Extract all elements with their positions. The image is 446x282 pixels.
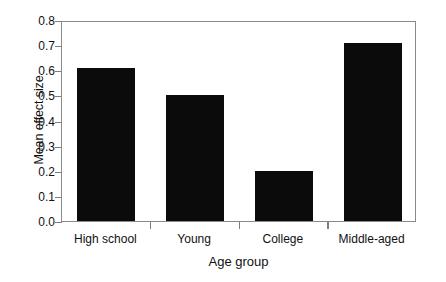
y-axis-tick-label: 0.1: [22, 191, 55, 203]
bar-middle-aged: [344, 43, 402, 221]
x-axis-title: Age group: [61, 254, 416, 269]
bar-young: [166, 95, 224, 221]
y-axis-tick-label: 0.8: [22, 15, 55, 27]
x-axis-tick-mark: [327, 222, 329, 229]
bar-high-school: [77, 68, 135, 221]
y-axis-tick-label: 0.5: [22, 90, 55, 102]
y-axis-tick-mark: [55, 222, 62, 223]
y-axis-tick-label: 0.2: [22, 166, 55, 178]
y-axis-tick-label: 0.6: [22, 65, 55, 77]
y-axis-tick-label: 0.3: [22, 141, 55, 153]
y-axis-tick-label: 0.0: [22, 216, 55, 228]
bar-college: [255, 171, 313, 221]
plot-area: [61, 21, 416, 222]
y-axis-tick-label: 0.4: [22, 116, 55, 128]
y-axis-tick-labels: 0.80.70.60.50.40.30.20.10.0: [22, 21, 55, 222]
x-axis-tick-mark: [239, 222, 241, 229]
x-axis-tick-mark: [150, 222, 152, 229]
x-axis-tick-label: Middle-aged: [312, 232, 432, 246]
bar-chart-figure: Mean effect size 0.80.70.60.50.40.30.20.…: [0, 0, 446, 282]
y-axis-tick-label: 0.7: [22, 40, 55, 52]
